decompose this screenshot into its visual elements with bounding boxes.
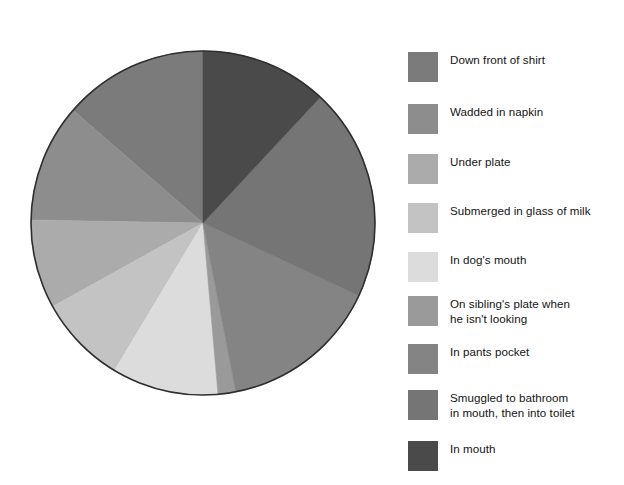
legend-item-label: In pants pocket bbox=[450, 344, 529, 360]
pie-chart-svg bbox=[24, 44, 384, 404]
legend-item[interactable]: Wadded in napkin bbox=[408, 104, 543, 134]
legend-swatch-smuggled-to-bathroom bbox=[408, 390, 438, 420]
legend-item-label: In dog's mouth bbox=[450, 252, 526, 268]
legend-swatch-wadded-in-napkin bbox=[408, 104, 438, 134]
legend-item-label: On sibling's plate when he isn't looking bbox=[450, 296, 570, 326]
legend-swatch-on-siblings-plate bbox=[408, 296, 438, 326]
legend-item-label: Wadded in napkin bbox=[450, 104, 543, 120]
legend-item-label: Under plate bbox=[450, 154, 511, 170]
legend-swatch-in-dogs-mouth bbox=[408, 252, 438, 282]
legend-item[interactable]: In dog's mouth bbox=[408, 252, 526, 282]
legend-swatch-in-pants-pocket bbox=[408, 344, 438, 374]
legend-swatch-down-front-of-shirt bbox=[408, 52, 438, 82]
legend-item[interactable]: Submerged in glass of milk bbox=[408, 203, 591, 233]
legend-item-label: Submerged in glass of milk bbox=[450, 203, 591, 219]
legend-item[interactable]: Smuggled to bathroom in mouth, then into… bbox=[408, 390, 574, 420]
chart-legend: Down front of shirtWadded in napkinUnder… bbox=[408, 24, 618, 464]
legend-item[interactable]: Down front of shirt bbox=[408, 52, 545, 82]
legend-item-label: Smuggled to bathroom in mouth, then into… bbox=[450, 390, 574, 420]
legend-item-label: Down front of shirt bbox=[450, 52, 545, 68]
legend-item[interactable]: Under plate bbox=[408, 154, 511, 184]
legend-swatch-submerged-in-glass-of-milk bbox=[408, 203, 438, 233]
pie-slice-group bbox=[31, 51, 375, 395]
pie-chart-plot-area bbox=[24, 44, 384, 404]
legend-item[interactable]: On sibling's plate when he isn't looking bbox=[408, 296, 570, 326]
legend-item[interactable]: In mouth bbox=[408, 441, 496, 471]
pie-chart-figure: Down front of shirtWadded in napkinUnder… bbox=[0, 0, 624, 485]
legend-item-label: In mouth bbox=[450, 441, 496, 457]
legend-swatch-in-mouth bbox=[408, 441, 438, 471]
legend-item[interactable]: In pants pocket bbox=[408, 344, 529, 374]
legend-swatch-under-plate bbox=[408, 154, 438, 184]
